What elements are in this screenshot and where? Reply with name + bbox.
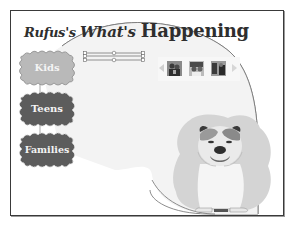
nav-label-families: Families	[17, 130, 77, 170]
slider-handle-end[interactable]	[142, 52, 145, 55]
next-arrow-icon[interactable]	[232, 64, 237, 72]
mascot-image	[170, 112, 274, 214]
nav-button-teens[interactable]: Teens	[17, 89, 77, 129]
nav-label-kids: Kids	[17, 48, 77, 88]
nav-button-kids[interactable]: Kids	[17, 48, 77, 88]
title-happening: Happening	[141, 20, 249, 41]
photo-strip	[158, 57, 240, 81]
nav-label-teens: Teens	[17, 89, 77, 129]
title-possessive: 's	[65, 25, 80, 40]
prev-arrow-icon[interactable]	[159, 64, 164, 72]
photo-thumbnail-1[interactable]	[167, 61, 182, 76]
bulldog-illustration	[170, 112, 274, 214]
photo-thumbnail-2[interactable]	[189, 61, 204, 76]
page-title: Rufus's What's Happening	[24, 20, 249, 41]
nav-button-families[interactable]: Families	[17, 130, 77, 170]
slider-handle-middle[interactable]	[112, 51, 116, 55]
title-rufus: Rufus	[24, 25, 65, 40]
title-whats: What's	[80, 23, 141, 41]
timeline-slider[interactable]	[83, 50, 145, 64]
photo-thumbnail-3[interactable]	[211, 61, 226, 76]
slider-handle-start[interactable]	[84, 52, 87, 55]
